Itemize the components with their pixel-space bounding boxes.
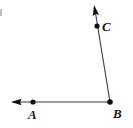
ray-ba	[11, 99, 110, 105]
point-dot-a	[30, 99, 35, 104]
point-dot-c	[94, 23, 99, 28]
arrowhead-left-icon	[11, 99, 22, 105]
point-label-a: A	[28, 108, 37, 121]
point-label-b: B	[113, 107, 122, 120]
point-label-c: C	[102, 20, 111, 33]
geometry-figure-canvas: A B C	[0, 0, 133, 128]
left-edge-speck	[0, 9, 2, 16]
point-dot-b	[107, 99, 113, 105]
